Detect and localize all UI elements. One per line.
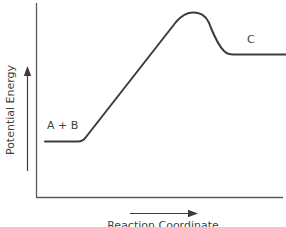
reactant-label: A + B bbox=[47, 120, 78, 131]
energy-diagram: A + B C Potential Energy Reaction Coordi… bbox=[0, 0, 286, 227]
energy-curve bbox=[45, 12, 286, 141]
up-arrow-icon bbox=[24, 66, 31, 171]
product-label: C bbox=[247, 34, 255, 45]
right-arrow-icon bbox=[130, 210, 198, 217]
y-axis-label: Potential Energy bbox=[5, 65, 16, 155]
diagram-canvas bbox=[0, 0, 286, 227]
x-axis-label: Reaction Coordinate bbox=[107, 220, 219, 227]
